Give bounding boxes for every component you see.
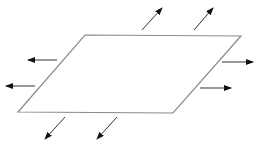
arrow-bottom-icon xyxy=(97,117,117,139)
arrow-top-icon xyxy=(142,8,162,30)
arrow-top-icon xyxy=(194,8,213,30)
diagram-canvas xyxy=(0,0,261,142)
arrow-bottom-icon xyxy=(45,117,65,139)
force-arrows xyxy=(6,8,253,139)
parallelogram-plate xyxy=(18,35,241,113)
